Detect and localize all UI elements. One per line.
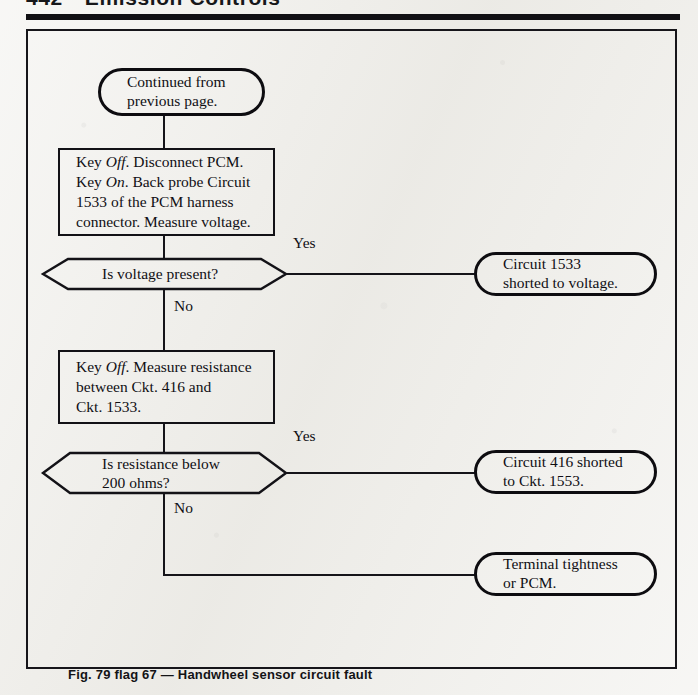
result-2-line-1: Circuit 416 shorted [503,453,623,470]
start-terminal-line-2: previous page. [127,92,217,109]
process-2-line-3: Ckt. 1533. [76,398,141,415]
result-3-text: Terminal tightness or PCM. [477,555,632,593]
connector-process1-to-decision1 [163,236,165,258]
decision-2-no-label: No [174,499,193,517]
process-1-line1-emphasis: Off [106,153,126,170]
result-3-line-1: Terminal tightness [503,555,618,572]
connector-decision1-no [163,290,165,350]
process-2-text: Key Off. Measure resistance between Ckt.… [60,357,266,417]
process-1-line-3: 1533 of the PCM harness [76,193,234,210]
decision-2-line-2: 200 ohms? [102,474,170,491]
process-1-line1-a: Key [76,153,106,170]
running-head: 442Emission Controls [26,0,281,10]
header-rule [26,14,680,20]
process-2-line-2: between Ckt. 416 and [76,378,211,395]
connector-decision2-yes [286,472,476,474]
figure-caption: Fig. 79 flag 67 — Handwheel sensor circu… [68,667,372,682]
node-decision-2: Is resistance below 200 ohms? [42,451,287,495]
start-terminal-text: Continued from previous page. [101,73,240,111]
process-1-line1-b: . Disconnect PCM. [126,153,244,170]
decision-1-text: Is voltage present? [102,264,218,283]
decision-1-no-label: No [174,297,193,315]
process-2-line1-emphasis: Off [106,358,126,375]
process-2-line1-a: Key [76,358,106,375]
result-2-text: Circuit 416 shorted to Ckt. 1553. [477,453,637,491]
result-1-line-2: shorted to voltage. [503,274,618,291]
process-1-line2-a: Key [76,173,106,190]
process-2-line1-b: . Measure resistance [126,358,252,375]
result-1-text: Circuit 1533 shorted to voltage. [477,255,632,293]
decision-2-yes-label: Yes [293,427,316,445]
process-1-text: Key Off. Disconnect PCM. Key On. Back pr… [60,152,265,233]
connector-decision1-yes [286,273,476,275]
result-1-line-1: Circuit 1533 [503,255,581,272]
node-result-3: Terminal tightness or PCM. [474,552,657,596]
node-result-2: Circuit 416 shorted to Ckt. 1553. [474,450,657,494]
process-1-line-4: connector. Measure voltage. [76,213,251,230]
running-head-title: Emission Controls [85,0,281,9]
connector-start-to-process1 [163,116,165,148]
node-result-1: Circuit 1533 shorted to voltage. [474,252,657,296]
node-decision-1: Is voltage present? [42,257,287,291]
result-3-line-2: or PCM. [503,574,556,591]
result-2-line-2: to Ckt. 1553. [503,472,584,489]
node-process-2: Key Off. Measure resistance between Ckt.… [58,350,275,424]
decision-2-line-1: Is resistance below [102,455,220,472]
node-process-1: Key Off. Disconnect PCM. Key On. Back pr… [58,148,275,236]
node-start-terminal: Continued from previous page. [98,68,265,116]
start-terminal-line-1: Continued from [127,73,226,90]
connector-decision2-no-horizontal [163,574,476,576]
connector-decision2-no-vertical [163,494,165,576]
process-1-line2-emphasis: On [106,173,125,190]
decision-1-yes-label: Yes [293,234,316,252]
decision-2-text: Is resistance below 200 ohms? [102,454,220,493]
figure-frame: Continued from previous page. Key Off. D… [26,29,677,669]
process-1-line2-b: . Back probe Circuit [125,173,251,190]
connector-process2-to-decision2 [163,424,165,452]
page-number: 442 [26,0,63,9]
